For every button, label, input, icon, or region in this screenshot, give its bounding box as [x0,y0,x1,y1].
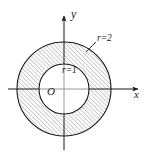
origin-label: O [47,86,55,97]
annulus-diagram [0,0,150,155]
figure-container: y x O r=2 r=1 [0,0,150,155]
y-axis-label: y [71,8,76,20]
inner-radius-label: r=1 [62,66,77,76]
outer-radius-label: r=2 [97,34,112,44]
x-axis-label: x [134,89,139,100]
